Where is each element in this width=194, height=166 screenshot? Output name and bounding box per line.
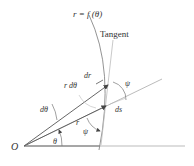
tangent-line — [101, 40, 113, 145]
origin-label: O — [11, 141, 18, 152]
upper-radius-ray — [24, 85, 108, 146]
polar-tangent-diagram: r = f (θ) Tangent dr r dθ ψ dθ ds r ψ θ … — [0, 0, 194, 166]
dtheta-label: dθ — [40, 105, 48, 114]
dr-label: dr — [84, 71, 92, 80]
theta-label: θ — [53, 137, 57, 146]
r-dtheta-label: r dθ — [64, 81, 77, 90]
psi-lower-label: ψ — [83, 127, 89, 136]
tangent-label: Tangent — [100, 29, 129, 39]
psi-upper-label: ψ — [125, 79, 131, 88]
curve-label: r = f (θ) — [73, 9, 102, 19]
ds-label: ds — [115, 105, 122, 114]
